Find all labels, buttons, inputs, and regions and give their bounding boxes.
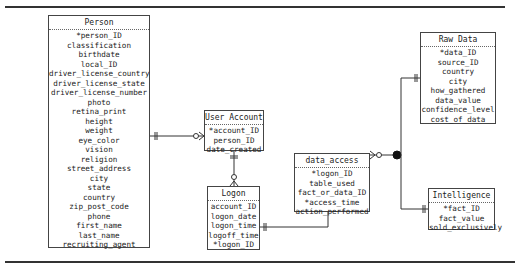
attribute: logon_time [208,221,259,231]
attribute-list: *account_ID person_ID date_created [205,125,263,155]
entity-person[interactable]: Person *person_ID classification birthda… [48,15,150,248]
entity-raw-data[interactable]: Raw Data *data_ID source_ID country city… [420,32,496,124]
attribute: fact_or_data_ID [295,188,369,198]
attribute: table_used [295,179,369,189]
attribute: vision [49,145,149,155]
attribute: phone [49,212,149,222]
attribute: *logon_ID [208,240,259,250]
attribute: logoff_time [208,231,259,241]
attribute: confidence_level [421,105,495,115]
attribute: birthdate [49,50,149,60]
attribute-list: *person_ID classification birthdate loca… [49,30,149,250]
attribute-list: *logon_ID table_used fact_or_data_ID *ac… [295,168,369,217]
attribute: state [49,183,149,193]
subtype-intelligence-line [401,155,428,209]
attribute: photo [49,98,149,108]
attribute: zip_post_code [49,202,149,212]
exclusive-subtype-marker [393,151,401,159]
entity-title: Person [49,16,149,30]
attribute: *logon_ID [295,169,369,179]
attribute: how_gathered [421,86,495,96]
attribute: date_created [205,145,263,155]
attribute: height [49,117,149,127]
attribute: driver_license_state [49,79,149,89]
attribute: religion [49,155,149,165]
entity-user-account[interactable]: User Account *account_ID person_ID date_… [204,110,264,151]
entity-title: Intelligence [429,189,494,203]
attribute: driver_license_country [49,69,149,79]
attribute-list: *fact_ID fact_value sold_exclusively [429,203,494,233]
attribute: logon_date [208,212,259,222]
attribute: cost_of_data [421,115,495,125]
subtype-rawdata-line [401,78,420,155]
attribute: first_name [49,221,149,231]
attribute: eye_color [49,136,149,146]
attribute: data_value [421,96,495,106]
attribute: country [421,67,495,77]
attribute: city [421,77,495,87]
attribute: classification [49,41,149,51]
entity-title: Logon [208,187,259,201]
attribute: last_name [49,231,149,241]
attribute: *fact_ID [429,204,494,214]
attribute: sold_exclusively [429,223,494,233]
entity-intelligence[interactable]: Intelligence *fact_ID fact_value sold_ex… [428,188,495,230]
attribute: local_ID [49,60,149,70]
attribute: street_address [49,164,149,174]
attribute: person_ID [205,136,263,146]
attribute: city [49,174,149,184]
attribute: account_ID [208,202,259,212]
attribute: source_ID [421,58,495,68]
attribute-list: account_ID logon_date logon_time logoff_… [208,201,259,250]
attribute: *person_ID [49,31,149,41]
attribute: retina_print [49,107,149,117]
attribute: country [49,193,149,203]
attribute: recruiting_agent [49,240,149,250]
er-diagram-canvas: Person *person_ID classification birthda… [0,0,520,271]
attribute: *account_ID [205,126,263,136]
attribute: fact_value [429,214,494,224]
entity-title: data_access [295,154,369,168]
entity-logon[interactable]: Logon account_ID logon_date logon_time l… [207,186,260,250]
entity-data-access[interactable]: data_access *logon_ID table_used fact_or… [294,153,370,212]
entity-title: User Account [205,111,263,125]
attribute: *data_ID [421,48,495,58]
attribute-list: *data_ID source_ID country city how_gath… [421,47,495,124]
entity-title: Raw Data [421,33,495,47]
attribute: *access_time [295,198,369,208]
attribute: action_performed [295,207,369,217]
attribute: weight [49,126,149,136]
attribute: driver_license_number [49,88,149,98]
